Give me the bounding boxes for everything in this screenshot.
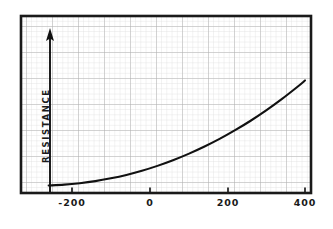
x-tick-label-minus200: -200 — [58, 197, 85, 208]
y-axis-title: RESISTANCE — [41, 88, 51, 163]
grid-major — [21, 16, 311, 193]
resistance-vs-temperature-chart: RESISTANCE -200 0 200 400 — [0, 0, 333, 229]
x-tick-label-200: 200 — [217, 197, 240, 208]
x-tick-label-0: 0 — [146, 197, 154, 208]
x-tick-label-400: 400 — [294, 197, 317, 208]
